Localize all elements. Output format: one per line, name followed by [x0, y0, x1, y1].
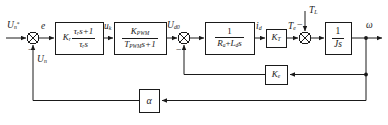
- sum2-negative-sign: −: [176, 45, 182, 55]
- signal-label-regulator-output: uk: [104, 22, 111, 32]
- signal-label-converter-output: Ud0: [167, 21, 180, 31]
- signal-label-armature-current: id: [256, 22, 262, 32]
- signal-label-output-speed: ω: [366, 21, 373, 31]
- sum3-negative-sign: −: [297, 20, 303, 30]
- signal-label-error: e: [41, 22, 45, 32]
- inertia-block: 1 Js: [325, 22, 351, 54]
- signal-label-load-torque: TL: [309, 6, 318, 16]
- sum1-negative-sign: −: [28, 45, 34, 55]
- speed-feedback-gain-block: α: [139, 89, 159, 112]
- pwm-converter-block: KPWM TPWMs+1: [114, 22, 166, 54]
- control-block-diagram: Un* e Un uk Ud0 id Te TL ω − − − Kr τrs+…: [0, 0, 388, 125]
- signal-label-speed-feedback-voltage: Un: [37, 55, 47, 65]
- junction-dot-feedback: [364, 73, 368, 77]
- back-emf-constant-block: Ke: [265, 65, 287, 84]
- armature-circuit-block: 1 Ra+Lds: [205, 22, 254, 54]
- signal-label-reference-input: Un*: [7, 21, 20, 31]
- diagram-wiring: [0, 0, 388, 125]
- torque-constant-block: KT: [266, 29, 286, 47]
- speed-regulator-block: Kr τrs+1 τrs: [55, 22, 103, 54]
- junction-dot-omega: [364, 36, 368, 40]
- signal-label-electromagnetic-torque: Te: [288, 22, 296, 32]
